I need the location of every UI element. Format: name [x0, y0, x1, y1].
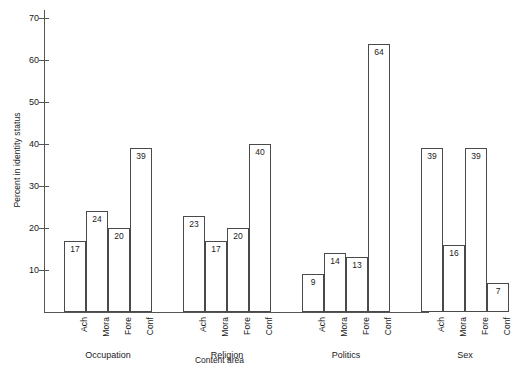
y-tick-mark — [39, 228, 49, 229]
category-label-fore: Fore — [242, 317, 252, 335]
category-label-ach: Ach — [317, 317, 327, 332]
x-axis-line — [44, 312, 429, 313]
y-tick-label: 20 — [29, 223, 39, 233]
y-tick-mark — [39, 102, 49, 103]
bar: 16 — [443, 245, 465, 312]
bar: 17 — [64, 241, 86, 312]
bar: 39 — [421, 148, 443, 312]
bar: 24 — [86, 211, 108, 312]
category-label-conf: Conf — [264, 317, 274, 335]
bar-value-label: 39 — [466, 151, 486, 161]
bar-value-label: 17 — [65, 244, 85, 254]
bar-value-label: 24 — [87, 214, 107, 224]
bar-value-label: 9 — [303, 277, 323, 287]
bar: 13 — [346, 257, 368, 312]
bar: 7 — [487, 283, 509, 312]
bar-value-label: 13 — [347, 260, 367, 270]
bar-value-label: 17 — [206, 244, 226, 254]
bar-value-label: 64 — [369, 47, 389, 57]
bar-value-label: 23 — [184, 219, 204, 229]
y-tick-mark — [39, 60, 49, 61]
bar: 39 — [465, 148, 487, 312]
category-label-mora: Mora — [101, 317, 111, 337]
y-tick-label: 70 — [29, 13, 39, 23]
bar-value-label: 39 — [422, 151, 442, 161]
bar-value-label: 39 — [131, 151, 151, 161]
category-label-ach: Ach — [198, 317, 208, 332]
y-tick-mark — [39, 144, 49, 145]
category-label-mora: Mora — [458, 317, 468, 337]
bar-value-label: 7 — [488, 286, 508, 296]
bar: 20 — [227, 228, 249, 312]
category-label-conf: Conf — [383, 317, 393, 335]
category-label-fore: Fore — [480, 317, 490, 335]
y-tick-mark — [39, 270, 49, 271]
x-axis-title: Content area — [0, 355, 439, 365]
bar: 23 — [183, 216, 205, 312]
y-axis-line — [44, 10, 45, 313]
bar: 9 — [302, 274, 324, 312]
bar: 20 — [108, 228, 130, 312]
plot-area: 10203040506070 1724203923172040914136439… — [44, 10, 429, 313]
bar: 14 — [324, 253, 346, 312]
y-tick-label: 30 — [29, 181, 39, 191]
category-label-mora: Mora — [339, 317, 349, 337]
y-tick-mark — [39, 186, 49, 187]
y-tick-label: 40 — [29, 139, 39, 149]
category-label-conf: Conf — [145, 317, 155, 335]
category-label-ach: Ach — [79, 317, 89, 332]
group-label-sex: Sex — [457, 350, 473, 360]
bar-value-label: 20 — [109, 231, 129, 241]
bar: 40 — [249, 144, 271, 312]
bar: 17 — [205, 241, 227, 312]
y-tick-label: 50 — [29, 97, 39, 107]
y-tick-mark — [39, 18, 49, 19]
category-label-fore: Fore — [123, 317, 133, 335]
bar-value-label: 20 — [228, 231, 248, 241]
bar-value-label: 40 — [250, 147, 270, 157]
bar-value-label: 16 — [444, 248, 464, 258]
category-label-conf: Conf — [502, 317, 512, 335]
bar: 39 — [130, 148, 152, 312]
category-label-fore: Fore — [361, 317, 371, 335]
y-axis-title: Percent in identity status — [12, 85, 22, 235]
bar: 64 — [368, 44, 390, 312]
category-label-mora: Mora — [220, 317, 230, 337]
y-tick-label: 10 — [29, 265, 39, 275]
y-tick-label: 60 — [29, 55, 39, 65]
bar-value-label: 14 — [325, 256, 345, 266]
category-label-ach: Ach — [436, 317, 446, 332]
